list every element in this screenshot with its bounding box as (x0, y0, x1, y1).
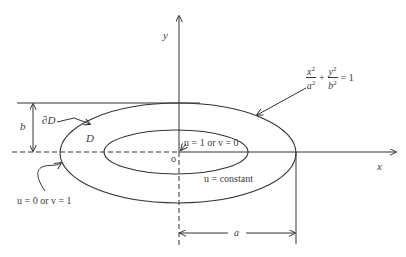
ellipse-domain-diagram (0, 0, 406, 257)
equation-pointer-arrow (257, 88, 306, 115)
x-axis-label: x (377, 161, 382, 172)
b-label: b (20, 121, 26, 132)
outer-condition-label: u = 0 or v = 1 (17, 196, 72, 206)
equation-plus: + (319, 72, 325, 83)
inner-condition-label: u = 1 or v = 0 (184, 138, 239, 148)
equation-term-x: x2 a2 (306, 64, 316, 92)
equation-rhs: = 1 (341, 72, 354, 83)
a-label: a (234, 228, 239, 238)
outer-condition-pointer-arrow (38, 163, 61, 191)
ellipse-equation: x2 a2 + y2 b2 = 1 (306, 64, 354, 92)
domain-label: D (86, 133, 94, 144)
level-curve-label: u = constant (204, 174, 253, 184)
outer-ellipse (60, 103, 296, 203)
boundary-label: ∂D (42, 115, 55, 126)
equation-term-y: y2 b2 (328, 64, 338, 92)
eq-exp: 2 (311, 65, 315, 73)
eq-exp: 2 (312, 79, 316, 87)
eq-exp: 2 (333, 65, 337, 73)
boundary-pointer-arrow (57, 118, 90, 124)
origin-label: o (171, 154, 176, 164)
eq-exp: 2 (333, 79, 337, 87)
inner-condition-text: u = 1 or v = 0 (184, 137, 239, 148)
y-axis-label: y (163, 30, 168, 41)
